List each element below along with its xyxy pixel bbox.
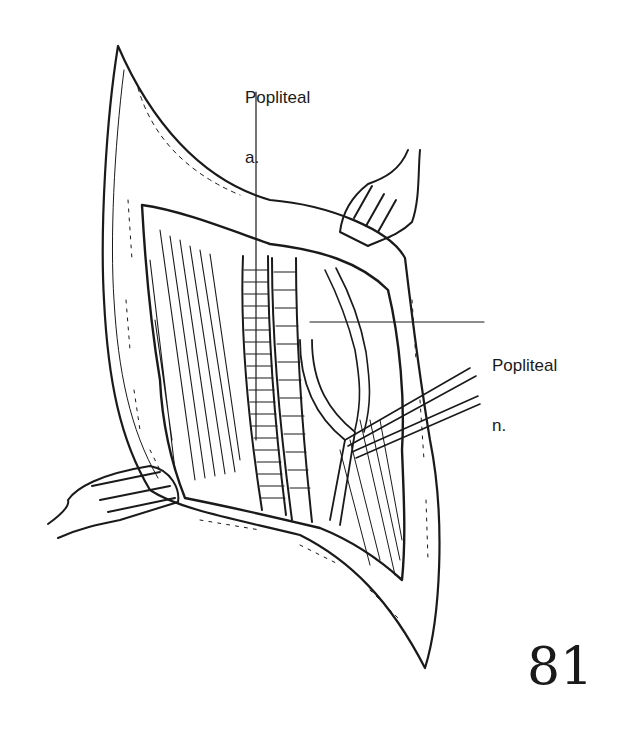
label-popliteal-artery: Popliteal a. bbox=[245, 48, 310, 188]
popliteal-nerve bbox=[300, 268, 370, 525]
figure-number: 81 bbox=[527, 640, 593, 692]
label-popliteal-nerve: Popliteal n. bbox=[492, 316, 557, 456]
label-popliteal-nerve-line2: n. bbox=[492, 416, 557, 436]
popliteal-artery bbox=[242, 256, 286, 515]
retractor-upper bbox=[340, 150, 420, 246]
label-popliteal-artery-line2: a. bbox=[245, 148, 310, 168]
label-popliteal-nerve-line1: Popliteal bbox=[492, 356, 557, 376]
retractor-lower bbox=[48, 466, 178, 538]
label-popliteal-artery-line1: Popliteal bbox=[245, 88, 310, 108]
